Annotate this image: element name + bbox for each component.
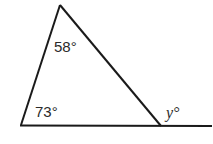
triangle-diagram: 58° 73° y° xyxy=(0,0,213,144)
bottom-left-angle-label: 73° xyxy=(35,103,58,120)
baseline-extended xyxy=(20,126,212,127)
triangle-side-right xyxy=(60,5,161,126)
exterior-angle-label: y° xyxy=(164,104,180,122)
top-angle-label: 58° xyxy=(54,38,77,55)
